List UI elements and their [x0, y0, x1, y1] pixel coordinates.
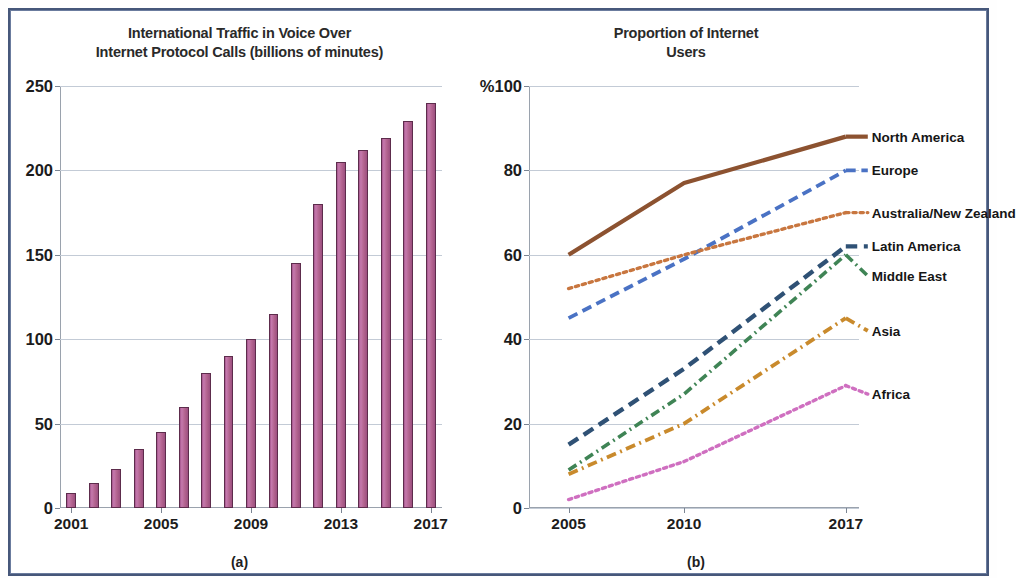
bar [403, 121, 413, 508]
bar [426, 103, 436, 508]
y-tick-label: 150 [25, 245, 53, 264]
x-tick-label: 2017 [829, 515, 863, 533]
line-series-path [569, 386, 846, 500]
line-series-path [569, 255, 846, 470]
legend-label-latin-america: Latin America [872, 239, 961, 254]
bar [381, 138, 391, 508]
x-tick-label: 2005 [144, 515, 178, 533]
gridline [529, 508, 859, 509]
bar [89, 483, 99, 508]
y-tick-mark [55, 508, 60, 509]
x-tick-label: 2010 [667, 515, 701, 533]
x-tick-mark [684, 508, 685, 513]
bar-plot-area: 050100150200250 20012005200920132017 [60, 86, 442, 508]
line-series [529, 86, 859, 508]
legend-label-north-america: North America [872, 129, 965, 144]
line-plot-area: 020406080%100 North AmericaEuropeAustral… [529, 86, 859, 508]
line-series-path [569, 137, 846, 255]
bar [111, 469, 121, 508]
y-tick-label: 0 [513, 499, 522, 518]
panel-a-bar-chart: International Traffic in Voice Over Inte… [12, 12, 467, 572]
x-tick-label: 2013 [324, 515, 358, 533]
legend-label-europe: Europe [872, 163, 919, 178]
y-tick-label: 20 [504, 414, 522, 433]
bar [358, 150, 368, 508]
y-tick-label: 100 [25, 330, 53, 349]
x-tick-mark [431, 508, 432, 513]
x-tick-label: 2001 [54, 515, 88, 533]
bar [201, 373, 211, 508]
bar [269, 314, 279, 508]
x-tick-mark [251, 508, 252, 513]
y-tick-label: 0 [44, 499, 53, 518]
x-tick-mark [846, 508, 847, 513]
legend-label-africa: Africa [872, 387, 910, 402]
x-tick-mark [71, 508, 72, 513]
y-tick-mark [524, 508, 529, 509]
bar [246, 339, 256, 508]
bar [179, 407, 189, 508]
y-tick-label: 50 [35, 414, 53, 433]
x-tick-label: 2009 [234, 515, 268, 533]
x-tick-label: 2017 [414, 515, 448, 533]
panel-b-title: Proportion of Internet Users [507, 24, 865, 61]
bar [134, 449, 144, 508]
panel-a-title: International Traffic in Voice Over Inte… [12, 24, 467, 61]
x-tick-mark [341, 508, 342, 513]
y-tick-label: %100 [480, 77, 522, 96]
y-tick-label: 200 [25, 161, 53, 180]
panel-a-caption: (a) [12, 554, 467, 570]
panels-container: International Traffic in Voice Over Inte… [12, 12, 985, 572]
bar [336, 162, 346, 508]
panel-a-title-line1: International Traffic in Voice Over [12, 24, 467, 43]
legend-leader-line [846, 255, 868, 276]
x-tick-mark [569, 508, 570, 513]
y-tick-label: 60 [504, 245, 522, 264]
panel-b-title-line1: Proportion of Internet [507, 24, 865, 43]
x-tick-label: 2005 [551, 515, 585, 533]
legend-label-asia: Asia [872, 323, 901, 338]
y-tick-label: 80 [504, 161, 522, 180]
panel-a-title-line2: Internet Protocol Calls (billions of min… [12, 43, 467, 62]
bar-series [60, 86, 442, 508]
bar [156, 432, 166, 508]
panel-b-line-chart: Proportion of Internet Users 020406080%1… [467, 12, 985, 572]
y-tick-label: 40 [504, 330, 522, 349]
panel-b-title-line2: Users [507, 43, 865, 62]
x-tick-mark [161, 508, 162, 513]
y-tick-label: 250 [25, 77, 53, 96]
bar [224, 356, 234, 508]
legend-label-australia-new-zealand: Australia/New Zealand [872, 205, 1016, 220]
bar [66, 493, 76, 508]
legend-leader-line [846, 318, 868, 331]
panel-b-caption: (b) [497, 554, 895, 570]
bar [291, 263, 301, 508]
line-series-path [569, 170, 846, 318]
legend-label-middle-east: Middle East [872, 268, 947, 283]
legend-leader-line [846, 386, 868, 394]
bar [313, 204, 323, 508]
